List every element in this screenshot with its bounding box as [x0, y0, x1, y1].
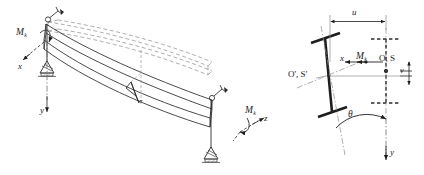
diagram-vector-layer — [0, 0, 424, 175]
moment-arrow-right — [240, 118, 249, 132]
axis-label-z-left: z — [264, 114, 268, 123]
midspan-section — [126, 82, 139, 103]
axis-x-left — [23, 42, 44, 60]
angle-theta-arc — [336, 114, 386, 128]
axis-label-x-left: x — [18, 62, 22, 71]
angle-label-theta: θ — [348, 110, 353, 120]
moment-label-right-panel: Mk — [356, 52, 367, 63]
axis-label-y-right: y — [390, 148, 394, 157]
axis-label-y-left: y — [40, 106, 44, 115]
support-right — [202, 100, 220, 162]
leader-line-displaced-label — [316, 76, 326, 78]
dimension-label-u: u — [352, 8, 357, 17]
end-rotation-marker-left — [45, 7, 64, 22]
moment-label-left: Mk — [16, 28, 27, 39]
axis-label-x-right: x — [340, 54, 344, 63]
section-label-displaced: O', S' — [288, 70, 307, 79]
moment-label-right: Mk — [245, 106, 256, 117]
left-panel-group — [23, 7, 264, 162]
figure-canvas: Mk x y Mk z u v x y Mk O, S O', S' θ — [0, 0, 424, 175]
rotated-web-axis-line — [321, 26, 345, 155]
undeformed-beam — [48, 20, 212, 75]
section-label-original: O, S — [379, 54, 395, 63]
right-panel-group — [297, 15, 412, 160]
dimension-label-v: v — [400, 66, 404, 75]
end-rotation-marker-right — [209, 85, 228, 101]
